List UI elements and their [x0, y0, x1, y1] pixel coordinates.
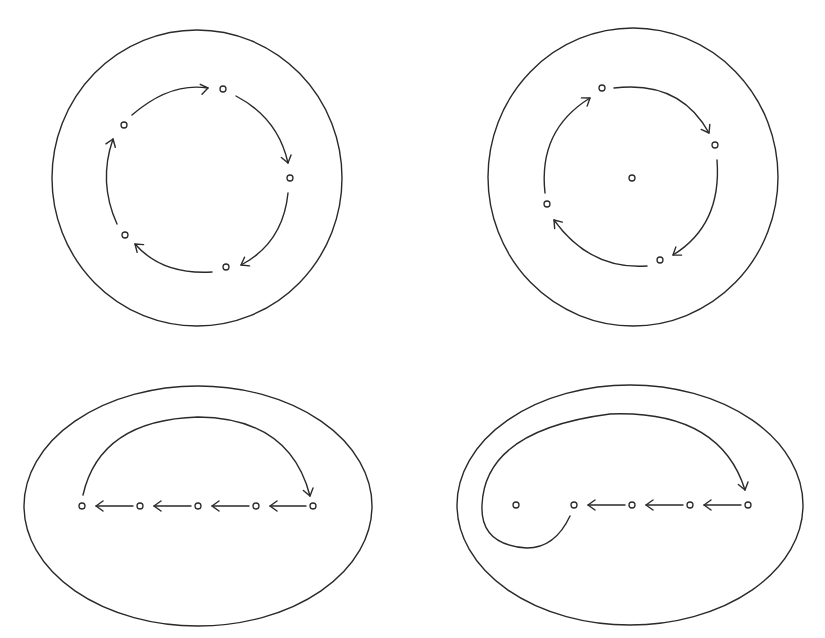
orbit-point	[712, 142, 718, 148]
orbit-point	[195, 503, 201, 509]
orbit-arrow-path	[236, 96, 288, 163]
orbit-point	[253, 503, 259, 509]
panel-top-left	[52, 30, 342, 326]
orbit-arrow-path	[544, 98, 590, 193]
arrowhead-icon	[200, 83, 209, 94]
orbit-arrow-path	[241, 193, 288, 265]
orbit-point	[287, 175, 293, 181]
orbit-point	[599, 85, 605, 91]
orbit-point	[220, 86, 226, 92]
circle-boundary	[52, 30, 342, 326]
orbit-point	[745, 502, 751, 508]
orbit-arrow-path	[135, 244, 212, 272]
orbit-point	[121, 122, 127, 128]
orbit-arrow-path	[106, 139, 117, 224]
panels	[24, 28, 803, 626]
orbit-arrow-path	[554, 220, 647, 266]
orbit-point	[310, 503, 316, 509]
orbit-arrow-path	[614, 87, 709, 133]
panel-bottom-right	[457, 385, 803, 625]
orbit-point	[629, 175, 635, 181]
orbit-point	[629, 502, 635, 508]
orbit-arrow-path	[132, 87, 208, 115]
orbit-point	[544, 201, 550, 207]
orbit-point	[137, 503, 143, 509]
orbit-point	[657, 257, 663, 263]
orbit-arrow-path	[673, 160, 717, 255]
orbit-point	[122, 232, 128, 238]
orbit-arrow-path	[482, 414, 745, 548]
orbit-arrow-path	[83, 417, 310, 496]
orbit-point	[513, 502, 519, 508]
orbit-point	[687, 502, 693, 508]
panel-bottom-left	[24, 386, 372, 626]
orbit-point	[79, 503, 85, 509]
diagram-canvas	[0, 0, 825, 638]
panel-top-right	[488, 28, 778, 326]
orbit-point	[223, 264, 229, 270]
orbit-point	[571, 502, 577, 508]
